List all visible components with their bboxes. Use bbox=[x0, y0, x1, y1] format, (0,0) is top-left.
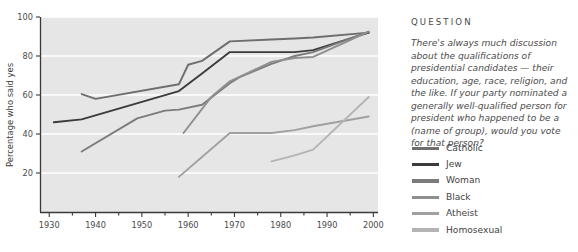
legend-item-homosexual[interactable]: Homosexual bbox=[412, 222, 572, 238]
legend-swatch-icon bbox=[412, 163, 439, 166]
legend-item-catholic[interactable]: Catholic bbox=[412, 140, 572, 156]
x-tick-label: 1980 bbox=[270, 220, 291, 230]
legend-label: Black bbox=[446, 193, 471, 202]
chart-legend: CatholicJewWomanBlackAtheistHomosexual bbox=[412, 140, 572, 238]
legend-swatch-icon bbox=[412, 228, 439, 231]
legend-label: Jew bbox=[446, 160, 462, 169]
x-tick-label: 1970 bbox=[224, 220, 245, 230]
chart-svg: 20406080100 1930194019501960197019801990… bbox=[0, 0, 400, 252]
legend-item-atheist[interactable]: Atheist bbox=[412, 206, 572, 222]
x-tick-label: 1950 bbox=[131, 220, 152, 230]
question-heading: QUESTION bbox=[411, 17, 473, 27]
x-tick-label: 1990 bbox=[317, 220, 338, 230]
legend-swatch-icon bbox=[412, 147, 439, 150]
x-tick-label: 1940 bbox=[85, 220, 106, 230]
legend-swatch-icon bbox=[412, 196, 439, 199]
legend-item-jew[interactable]: Jew bbox=[412, 156, 572, 172]
question-text: There's always much discussion about the… bbox=[411, 37, 573, 150]
x-axis-tick-labels: 19301940195019601970198019902000 bbox=[39, 220, 384, 230]
question-panel: QUESTION There's always much discussion … bbox=[410, 0, 578, 252]
legend-swatch-icon bbox=[412, 179, 439, 182]
y-tick-label: 60 bbox=[23, 90, 33, 100]
legend-item-woman[interactable]: Woman bbox=[412, 173, 572, 189]
y-tick-label: 100 bbox=[17, 12, 33, 22]
y-axis-tick-labels: 20406080100 bbox=[17, 12, 33, 178]
x-tick-label: 1930 bbox=[39, 220, 60, 230]
legend-label: Catholic bbox=[446, 144, 483, 153]
chart-page: 20406080100 1930194019501960197019801990… bbox=[0, 0, 578, 252]
y-axis-ticks bbox=[36, 17, 40, 173]
y-axis-title: Percentage who said yes bbox=[5, 63, 15, 167]
legend-item-black[interactable]: Black bbox=[412, 189, 572, 205]
legend-label: Woman bbox=[446, 176, 480, 185]
y-tick-label: 20 bbox=[23, 168, 33, 178]
legend-label: Homosexual bbox=[446, 226, 502, 235]
legend-label: Atheist bbox=[446, 209, 478, 218]
y-tick-label: 40 bbox=[23, 129, 33, 139]
y-tick-label: 80 bbox=[23, 51, 33, 61]
legend-swatch-icon bbox=[412, 212, 439, 215]
line-chart-figure: 20406080100 1930194019501960197019801990… bbox=[0, 0, 400, 252]
x-tick-label: 2000 bbox=[363, 220, 384, 230]
x-tick-label: 1960 bbox=[178, 220, 199, 230]
